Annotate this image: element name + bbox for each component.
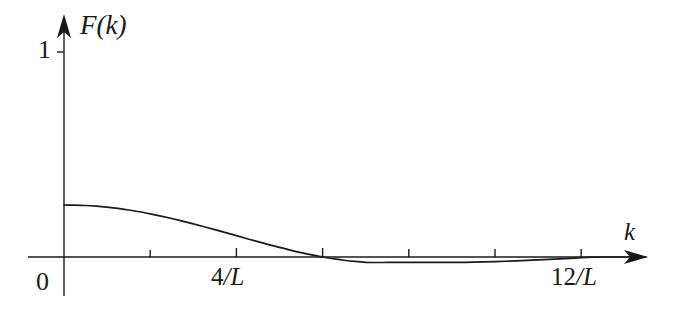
y-tick-label-1: 1 — [38, 37, 51, 63]
y-axis-label: F(k) — [80, 12, 126, 39]
x-tick-label-12-over-L: 12/L — [551, 264, 597, 289]
x-tick-label-4-denominator: L — [230, 263, 244, 290]
y-tick-label-1-text: 1 — [38, 35, 51, 64]
axes-group — [28, 14, 648, 296]
x-axis-ticks — [150, 248, 581, 257]
x-tick-label-4-over-L: 4/L — [211, 264, 244, 289]
x-axis-label-text: k — [624, 218, 635, 245]
x-tick-label-12-denominator: L — [583, 263, 597, 290]
x-tick-label-12-numerator: 12 — [551, 263, 576, 290]
figure-container: F(k) k 1 0 4/L 12/L — [0, 0, 675, 321]
x-axis-label: k — [624, 219, 635, 244]
y-axis-label-text: F(k) — [80, 10, 126, 40]
form-factor-curve — [64, 205, 646, 263]
origin-label-0-text: 0 — [36, 267, 49, 296]
x-tick-label-4-numerator: 4 — [211, 263, 224, 290]
x-tick-label-12-slash: / — [576, 263, 583, 290]
origin-label-0: 0 — [36, 269, 49, 295]
